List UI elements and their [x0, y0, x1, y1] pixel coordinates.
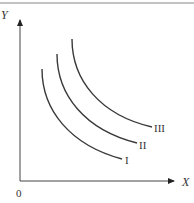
- indifference-curve-iii: [72, 39, 152, 127]
- y-axis-label: Y: [1, 8, 9, 22]
- curve-label-iii: III: [154, 122, 165, 134]
- x-axis-label: X: [181, 175, 190, 189]
- indifference-curve-diagram: Y X 0 I II III: [0, 0, 194, 203]
- curve-label-i: I: [125, 154, 129, 166]
- origin-label: 0: [16, 187, 22, 199]
- curve-label-ii: II: [139, 139, 147, 151]
